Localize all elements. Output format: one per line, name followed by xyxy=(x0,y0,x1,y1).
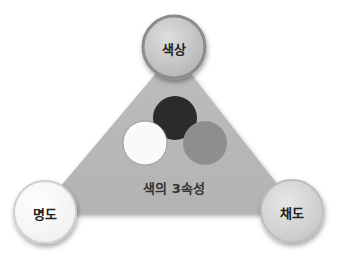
white-circle xyxy=(123,121,167,165)
gray-circle xyxy=(183,121,227,165)
diagram-title: 색의 3속성 xyxy=(143,178,205,197)
value-label: 명도 xyxy=(33,204,57,223)
color-attributes-diagram: 색상 명도 채도 색의 3속성 xyxy=(0,0,349,263)
hue-label: 색상 xyxy=(162,39,186,58)
saturation-label: 채도 xyxy=(280,203,304,222)
